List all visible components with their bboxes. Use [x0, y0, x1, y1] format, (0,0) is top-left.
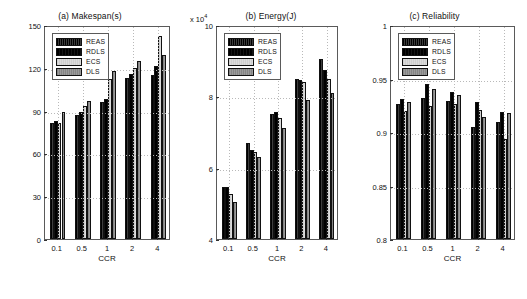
y-tick-label: 30: [0, 193, 41, 202]
legend-label-ecs: ECS: [258, 58, 273, 66]
legend-label-rdls: RDLS: [432, 48, 451, 56]
x-tick-mark: [326, 237, 327, 240]
y-tick-mark: [390, 133, 393, 134]
bar-dls-4: [162, 55, 166, 239]
bar-dls-0.5: [432, 89, 436, 239]
x-tick-label: 2: [475, 244, 479, 253]
legend-item-dls[interactable]: DLS: [228, 67, 277, 76]
legend-item-dls[interactable]: DLS: [56, 67, 105, 76]
x-tick-mark: [253, 237, 254, 240]
legend-swatch-ecs: [228, 58, 254, 66]
legend-swatch-rdls: [56, 48, 82, 56]
legend-item-rdls[interactable]: RDLS: [402, 47, 451, 56]
legend-swatch-dls: [402, 68, 428, 76]
bar-dls-4: [507, 113, 511, 239]
legend-swatch-rdls: [228, 48, 254, 56]
legend-item-dls[interactable]: DLS: [402, 67, 451, 76]
y-tick-mark: [44, 197, 47, 198]
panel-reliability: (c) Reliability 0.80.850.90.9510.10.5124…: [342, 0, 527, 299]
gridline-vertical: [327, 27, 328, 239]
bar-dls-1: [282, 128, 286, 239]
y-tick-mark: [44, 154, 47, 155]
x-tick-label: 0.1: [223, 244, 233, 253]
panel-energy: (b) Energy(J) x 104 468100.10.5124CCR RE…: [172, 0, 350, 299]
gridline-vertical: [133, 27, 134, 239]
x-axis-title: CCR: [444, 254, 461, 263]
y-tick-mark: [390, 26, 393, 27]
legend-item-rdls[interactable]: RDLS: [228, 47, 277, 56]
y-tick-mark: [44, 69, 47, 70]
y-tick-label: 4: [172, 236, 213, 245]
x-tick-mark: [403, 237, 404, 240]
legend-item-reas[interactable]: REAS: [402, 37, 451, 46]
legend-label-ecs: ECS: [86, 58, 101, 66]
y-tick-label: 6: [172, 164, 213, 173]
y-tick-mark: [216, 26, 219, 27]
legend-swatch-reas: [56, 38, 82, 46]
y-tick-label: 8: [172, 93, 213, 102]
y-tick-mark: [390, 187, 393, 188]
legend-item-ecs[interactable]: ECS: [56, 57, 105, 66]
legend-swatch-rdls: [402, 48, 428, 56]
panel-b-title: (b) Energy(J): [192, 11, 350, 21]
y-tick-label: 120: [0, 64, 41, 73]
legend-swatch-dls: [228, 68, 254, 76]
y-tick-mark: [216, 169, 219, 170]
legend-label-dls: DLS: [432, 68, 446, 76]
x-tick-mark: [478, 237, 479, 240]
x-tick-mark: [82, 237, 83, 240]
legend-label-dls: DLS: [258, 68, 272, 76]
x-tick-label: 1: [105, 244, 109, 253]
x-tick-mark: [132, 237, 133, 240]
bar-dls-0.1: [62, 112, 66, 239]
y-tick-label: 0: [0, 236, 41, 245]
x-tick-label: 2: [299, 244, 303, 253]
legend-label-rdls: RDLS: [258, 48, 277, 56]
legend-label-dls: DLS: [86, 68, 100, 76]
y-tick-label: 150: [0, 22, 41, 31]
x-tick-label: 1: [450, 244, 454, 253]
gridline-vertical: [158, 27, 159, 239]
y-tick-label: 0.9: [342, 129, 387, 138]
bar-dls-1: [457, 95, 461, 239]
legend-swatch-ecs: [56, 58, 82, 66]
gridline-vertical: [504, 27, 505, 239]
x-tick-mark: [107, 237, 108, 240]
y-tick-label: 0.95: [342, 75, 387, 84]
legend-item-ecs[interactable]: ECS: [402, 57, 451, 66]
legend-a: REASRDLSECSDLS: [52, 33, 109, 80]
gridline-horizontal: [45, 113, 169, 114]
y-tick-label: 1: [342, 22, 387, 31]
y-tick-mark: [216, 240, 219, 241]
x-tick-label: 2: [130, 244, 134, 253]
y-tick-label: 10: [172, 22, 213, 31]
legend-swatch-reas: [228, 38, 254, 46]
legend-swatch-reas: [402, 38, 428, 46]
legend-b: REASRDLSECSDLS: [224, 33, 281, 80]
bar-dls-4: [331, 93, 335, 239]
x-axis-title: CCR: [98, 254, 115, 263]
bar-dls-0.1: [233, 202, 237, 239]
bar-dls-2: [137, 61, 141, 239]
gridline-horizontal: [45, 198, 169, 199]
legend-item-reas[interactable]: REAS: [56, 37, 105, 46]
x-axis-title: CCR: [268, 254, 285, 263]
legend-label-reas: REAS: [432, 38, 451, 46]
x-tick-label: 0.1: [51, 244, 61, 253]
legend-item-ecs[interactable]: ECS: [228, 57, 277, 66]
x-tick-label: 4: [500, 244, 504, 253]
legend-item-rdls[interactable]: RDLS: [56, 47, 105, 56]
y-tick-label: 0.8: [342, 236, 387, 245]
legend-item-reas[interactable]: REAS: [228, 37, 277, 46]
panel-a-title: (a) Makespan(s): [0, 11, 180, 21]
x-tick-label: 0.5: [422, 244, 432, 253]
x-tick-label: 1: [275, 244, 279, 253]
y-tick-mark: [44, 26, 47, 27]
x-tick-label: 4: [324, 244, 328, 253]
x-tick-mark: [57, 237, 58, 240]
x-tick-mark: [503, 237, 504, 240]
legend-label-reas: REAS: [258, 38, 277, 46]
legend-label-rdls: RDLS: [86, 48, 105, 56]
gridline-vertical: [479, 27, 480, 239]
y-tick-mark: [390, 80, 393, 81]
